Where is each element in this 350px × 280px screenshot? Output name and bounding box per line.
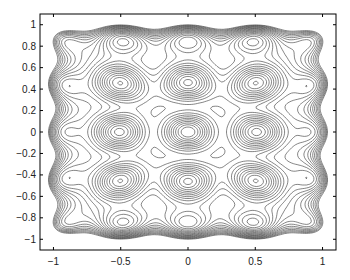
x-tick-label: −0.5 bbox=[111, 256, 131, 267]
y-tick-label: 1 bbox=[30, 19, 36, 30]
contour-level bbox=[51, 27, 325, 238]
y-tick-label: 0 bbox=[30, 127, 36, 138]
contour-level bbox=[101, 69, 275, 195]
y-tick-label: 0.2 bbox=[22, 105, 36, 116]
contour-level bbox=[99, 67, 277, 196]
contour-level bbox=[49, 25, 328, 239]
x-tick-label: −1 bbox=[48, 256, 60, 267]
y-tick-label: −0.8 bbox=[16, 212, 36, 223]
y-tick-label: −0.2 bbox=[16, 148, 36, 159]
y-tick-label: 0.8 bbox=[22, 41, 36, 52]
contour-level bbox=[94, 36, 282, 227]
contour-level bbox=[52, 27, 325, 237]
contour-level bbox=[49, 25, 327, 238]
contour-level bbox=[69, 34, 307, 231]
contour-level bbox=[111, 76, 266, 187]
y-tick-label: 0.6 bbox=[22, 62, 36, 73]
contour-level bbox=[108, 74, 268, 189]
plot-frame bbox=[40, 14, 336, 250]
contour-level bbox=[53, 28, 324, 236]
contour-level bbox=[62, 32, 314, 231]
contour-chart: −1−0.500.51 10.80.60.40.20−0.2−0.4−0.6−0… bbox=[0, 0, 350, 280]
y-tick-label: −0.4 bbox=[16, 169, 36, 180]
contour-level bbox=[106, 73, 271, 192]
contour-lines bbox=[49, 25, 328, 239]
y-tick-label: 0.4 bbox=[22, 84, 36, 95]
y-tick-label: −1 bbox=[25, 234, 37, 245]
x-tick-label: 0.5 bbox=[248, 256, 262, 267]
y-tick-label: −0.6 bbox=[16, 191, 36, 202]
contour-level bbox=[56, 30, 320, 234]
x-tick-label: 0 bbox=[185, 256, 191, 267]
x-tick-label: 1 bbox=[320, 256, 326, 267]
